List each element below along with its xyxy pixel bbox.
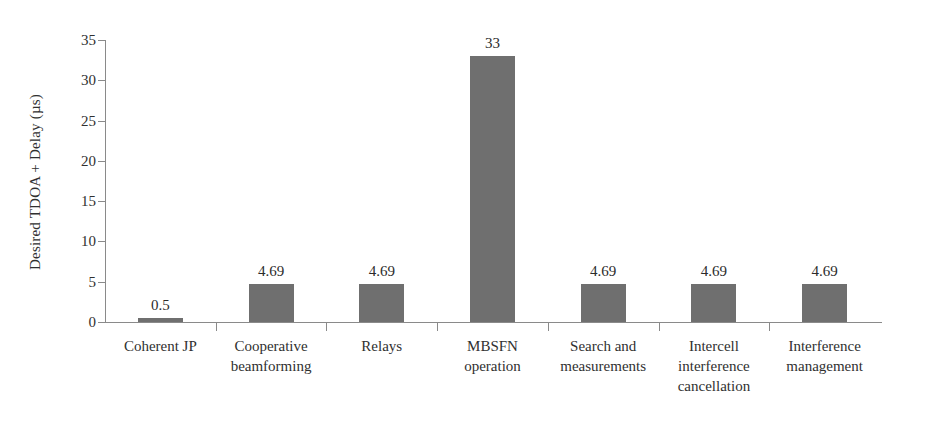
x-axis-category-label-line: MBSFN [437, 336, 548, 356]
x-axis-category-label-line: management [769, 356, 880, 376]
x-axis-separator-tick [769, 322, 770, 331]
y-axis-tick-mark [98, 322, 105, 323]
y-axis-tick-label: 35 [81, 32, 96, 49]
bar: 4.69 [249, 284, 294, 322]
x-axis-category-label-line: interference [659, 356, 770, 376]
y-axis-tick-mark [98, 80, 105, 81]
x-axis-category-label-line: Search and [548, 336, 659, 356]
bar: 0.5 [138, 318, 183, 322]
x-axis-category-label-line: cancellation [659, 376, 770, 396]
x-axis-category-label-line: operation [437, 356, 548, 376]
bar: 4.69 [691, 284, 736, 322]
bar-value-label: 4.69 [590, 263, 616, 280]
x-axis-line [105, 322, 882, 323]
x-axis-category-label-line: measurements [548, 356, 659, 376]
x-axis-separator-tick [216, 322, 217, 331]
y-axis-title: Desired TDOA + Delay (µs) [22, 40, 48, 324]
x-axis-category-label: Intercellinterferencecancellation [659, 336, 770, 396]
y-axis-tick-mark [98, 40, 105, 41]
y-axis-tick-mark [98, 282, 105, 283]
bar: 4.69 [359, 284, 404, 322]
x-axis-category-label: Coherent JP [105, 336, 216, 356]
x-axis-category-label: Search andmeasurements [548, 336, 659, 376]
y-axis-tick-label: 20 [81, 152, 96, 169]
y-axis-tick-label: 0 [89, 314, 97, 331]
x-axis-category-label-line: Cooperative [216, 336, 327, 356]
bar-value-label: 0.5 [151, 297, 170, 314]
bar-value-label: 33 [485, 35, 500, 52]
bar: 4.69 [802, 284, 847, 322]
y-axis-tick-label: 30 [81, 72, 96, 89]
bar: 33 [470, 56, 515, 322]
bar-value-label: 4.69 [812, 263, 838, 280]
bar-chart: Desired TDOA + Delay (µs) 05101520253035… [0, 0, 927, 426]
x-axis-category-label-line: Intercell [659, 336, 770, 356]
y-axis-tick-mark [98, 161, 105, 162]
y-axis-tick-mark [98, 201, 105, 202]
bar-value-label: 4.69 [701, 263, 727, 280]
x-axis-category-label: MBSFNoperation [437, 336, 548, 376]
x-axis-category-label-line: Relays [326, 336, 437, 356]
y-axis-tick-label: 5 [89, 273, 97, 290]
bar-value-label: 4.69 [258, 263, 284, 280]
x-axis-separator-tick [437, 322, 438, 331]
x-axis-category-label: Interferencemanagement [769, 336, 880, 376]
x-axis-separator-tick [548, 322, 549, 331]
x-axis-category-label: Relays [326, 336, 437, 356]
bar-value-label: 4.69 [369, 263, 395, 280]
y-axis-tick-label: 15 [81, 193, 96, 210]
x-axis-separator-tick [659, 322, 660, 331]
x-axis-category-label: Cooperativebeamforming [216, 336, 327, 376]
y-axis-tick-mark [98, 241, 105, 242]
x-axis-separator-tick [326, 322, 327, 331]
x-axis-category-label-line: beamforming [216, 356, 327, 376]
bar: 4.69 [581, 284, 626, 322]
x-axis-category-label-line: Interference [769, 336, 880, 356]
plot-area: 0.54.694.69334.694.694.69 [105, 40, 880, 322]
y-axis-tick-label: 10 [81, 233, 96, 250]
y-axis-tick-mark [98, 121, 105, 122]
y-axis-tick-label: 25 [81, 112, 96, 129]
x-axis-category-label-line: Coherent JP [105, 336, 216, 356]
